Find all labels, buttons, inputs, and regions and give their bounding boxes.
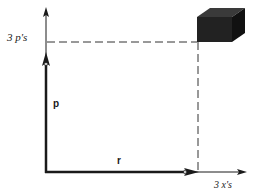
cube-icon bbox=[197, 8, 245, 42]
label-3-ps: 3 p's bbox=[7, 31, 27, 43]
phase-space-diagram: 3 p's 3 x's p r bbox=[0, 0, 255, 195]
label-vector-r: r bbox=[117, 155, 121, 166]
vector-p-arrow-base bbox=[44, 63, 48, 66]
label-3-xs: 3 x's bbox=[214, 179, 232, 190]
label-vector-p: p bbox=[53, 98, 59, 109]
cube-front-face bbox=[197, 17, 232, 42]
vector-r-arrow-base bbox=[184, 170, 187, 174]
diagram-graphics bbox=[0, 0, 255, 195]
